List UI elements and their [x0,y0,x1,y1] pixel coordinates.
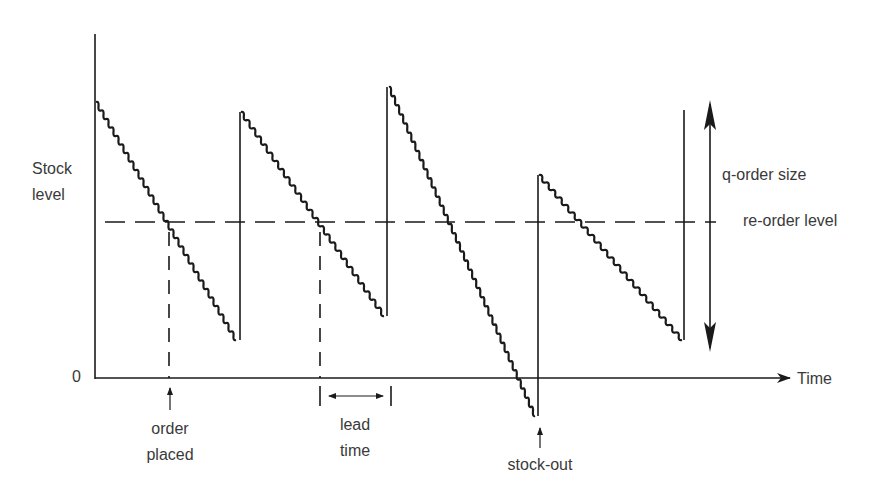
stock-level-diagram [0,0,882,487]
reorder-level-label: re-order level [743,210,837,232]
stock-cycle-4 [539,175,682,340]
stock-level-series [96,87,682,416]
q-order-size-label: q-order size [722,164,806,186]
lead-time-label-line1: lead [315,414,395,436]
stock-cycle-2 [241,112,384,316]
origin-label: 0 [72,366,81,388]
stock-out-label: stock-out [490,454,590,476]
order-placed-label-line1: order [130,418,210,440]
stock-cycle-1 [96,102,236,340]
order-placed-label-line2: placed [130,444,210,466]
stock-cycle-3 [389,87,535,416]
x-axis-label: Time [797,368,832,390]
y-axis-label-line2: level [32,184,65,206]
y-axis-label-line1: Stock [32,158,72,180]
lead-time-label-line2: time [315,440,395,462]
